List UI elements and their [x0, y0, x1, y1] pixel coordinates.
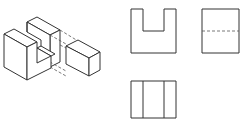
side-view	[202, 9, 239, 53]
isometric-view	[4, 17, 100, 80]
separate-block	[66, 40, 100, 76]
front-view	[131, 9, 176, 53]
diagram-canvas	[0, 0, 245, 122]
top-view	[131, 81, 176, 118]
